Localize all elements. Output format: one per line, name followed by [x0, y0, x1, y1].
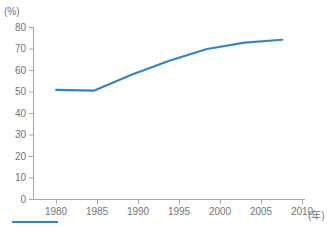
x-axis-ticks: [57, 200, 303, 205]
x-tick-label-1990: 1990: [118, 207, 158, 217]
x-tick-label-2000: 2000: [200, 207, 240, 217]
y-tick-label-10: 10: [2, 173, 26, 183]
plot-area: [0, 0, 332, 227]
y-tick-label-30: 30: [2, 130, 26, 140]
y-tick-label-20: 20: [2, 152, 26, 162]
legend: [0, 219, 332, 227]
x-tick-label-1985: 1985: [77, 207, 117, 217]
x-tick-label-1995: 1995: [159, 207, 199, 217]
x-tick-label-2005: 2005: [241, 207, 281, 217]
series-line-0: [56, 40, 282, 91]
y-tick-label-0: 0: [2, 195, 26, 205]
y-tick-label-50: 50: [2, 87, 26, 97]
legend-swatch-icon: [12, 221, 58, 223]
y-tick-label-40: 40: [2, 109, 26, 119]
x-tick-label-1980: 1980: [36, 207, 76, 217]
y-tick-label-60: 60: [2, 66, 26, 76]
line-chart: (%) 80 70: [0, 0, 332, 227]
y-axis-ticks: [29, 28, 34, 200]
y-tick-label-80: 80: [2, 23, 26, 33]
y-tick-label-70: 70: [2, 44, 26, 54]
